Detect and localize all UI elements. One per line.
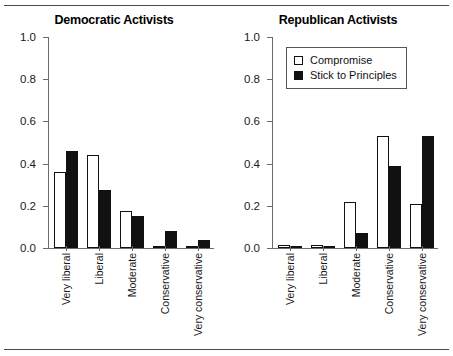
y-axis-tick: 0.8 [43, 79, 48, 80]
x-axis-tick [198, 246, 199, 251]
bar-group [115, 37, 148, 248]
filled-square-icon [294, 71, 303, 80]
x-axis-tick [165, 246, 166, 251]
legend-entry-stick-to-principles: Stick to Principles [294, 68, 397, 83]
y-axis-tick-label: 0.0 [20, 242, 36, 254]
x-axis-label: Very liberal [60, 253, 72, 305]
bar [422, 136, 434, 248]
bar [389, 166, 401, 248]
x-axis-tick [132, 246, 133, 251]
bar [54, 172, 66, 248]
x-axis-tick [99, 246, 100, 251]
y-axis-tick-label: 0.8 [20, 73, 36, 85]
y-axis-tick: 0.8 [267, 79, 272, 80]
x-axis-tick [422, 246, 423, 251]
x-axis-label-cell: Conservative [372, 251, 405, 346]
y-axis-tick-label: 1.0 [20, 31, 36, 43]
x-axis-label: Moderate [350, 253, 362, 297]
x-axis-tick [356, 246, 357, 251]
panel-title: Republican Activists [228, 13, 448, 27]
x-axis-labels: Very liberalLiberalModerateConservativeV… [273, 251, 438, 346]
y-axis-tick: 0.4 [43, 164, 48, 165]
x-axis-label-cell: Very liberal [49, 251, 82, 346]
x-axis-label-cell: Liberal [82, 251, 115, 346]
x-axis-label: Moderate [126, 253, 138, 297]
bar [87, 155, 99, 248]
bar-group [148, 37, 181, 248]
bottom-rule [4, 349, 449, 350]
x-axis-label-cell: Liberal [306, 251, 339, 346]
bar [99, 190, 111, 248]
bar [66, 151, 78, 248]
x-axis-label-cell: Very conservative [181, 251, 214, 346]
x-axis-label: Conservative [383, 253, 395, 314]
x-axis-tick [290, 246, 291, 251]
x-axis-label: Very liberal [284, 253, 296, 305]
bar [344, 202, 356, 248]
y-axis-tick: 0.2 [43, 206, 48, 207]
x-axis-label-cell: Moderate [339, 251, 372, 346]
open-square-icon [294, 56, 303, 65]
panel-title: Democratic Activists [4, 13, 224, 27]
bar [132, 216, 144, 248]
y-axis-tick: 1.0 [43, 37, 48, 38]
x-axis-label: Liberal [317, 253, 329, 285]
bar [198, 240, 210, 248]
bar [120, 211, 132, 248]
y-axis-tick: 0.4 [267, 164, 272, 165]
bar [377, 136, 389, 248]
bar-group [405, 37, 438, 248]
plot-area-democratic: 0.00.20.40.60.81.0 [48, 37, 214, 248]
x-axis-label-cell: Very liberal [273, 251, 306, 346]
x-axis-label: Very conservative [416, 253, 428, 336]
y-axis-tick-label: 1.0 [244, 31, 260, 43]
y-axis-tick-label: 0.8 [244, 73, 260, 85]
x-axis-label-cell: Conservative [148, 251, 181, 346]
bar-group [49, 37, 82, 248]
y-axis-tick: 0.2 [267, 206, 272, 207]
x-axis-label: Conservative [159, 253, 171, 314]
x-axis-label: Very conservative [192, 253, 204, 336]
bar [356, 233, 368, 248]
bar [165, 231, 177, 248]
y-axis-tick-label: 0.0 [244, 242, 260, 254]
panel-republican-activists: Republican Activists 0.00.20.40.60.81.0 … [228, 10, 448, 346]
x-axis-label-cell: Moderate [115, 251, 148, 346]
y-axis-tick: 1.0 [267, 37, 272, 38]
x-axis-label: Liberal [93, 253, 105, 285]
x-axis-tick [66, 246, 67, 251]
bar-group [82, 37, 115, 248]
bar-group-container [49, 37, 214, 248]
legend-label: Stick to Principles [310, 68, 397, 83]
legend: Compromise Stick to Principles [286, 47, 407, 89]
bar [410, 204, 422, 248]
x-axis-tick [389, 246, 390, 251]
y-axis-tick-label: 0.2 [20, 200, 36, 212]
y-axis-tick-label: 0.6 [244, 115, 260, 127]
legend-label: Compromise [310, 53, 372, 68]
bar-group [181, 37, 214, 248]
y-axis-tick: 0.6 [267, 121, 272, 122]
y-axis-tick-label: 0.2 [244, 200, 260, 212]
figure: Democratic Activists 0.00.20.40.60.81.0 … [0, 0, 453, 356]
y-axis-tick-label: 0.6 [20, 115, 36, 127]
y-axis-tick: 0.6 [43, 121, 48, 122]
panel-democratic-activists: Democratic Activists 0.00.20.40.60.81.0 … [4, 10, 224, 346]
y-axis-tick-label: 0.4 [244, 158, 260, 170]
y-axis-tick-label: 0.4 [20, 158, 36, 170]
x-axis-tick [323, 246, 324, 251]
top-rule [4, 5, 449, 6]
legend-entry-compromise: Compromise [294, 53, 397, 68]
x-axis-label-cell: Very conservative [405, 251, 438, 346]
x-axis-labels: Very liberalLiberalModerateConservativeV… [49, 251, 214, 346]
